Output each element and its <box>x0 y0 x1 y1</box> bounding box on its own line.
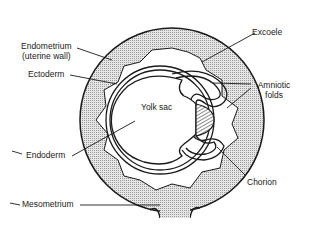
label-mesometrium: Mesometrium <box>22 200 73 209</box>
label-endoderm: Endoderm <box>26 151 65 160</box>
label-endometrium-sub: (uterine wall) <box>22 52 71 61</box>
label-amniotic-folds-sub: folds <box>250 91 298 100</box>
label-amniotic-folds: Amniotic <box>250 81 298 90</box>
label-endometrium: Endometrium <box>21 42 72 51</box>
label-ectoderm: Ectoderm <box>28 70 64 79</box>
label-excoele: Excoele <box>252 28 282 37</box>
label-chorion: Chorion <box>247 178 277 187</box>
label-yolk-sac: Yolk sac <box>141 103 172 112</box>
